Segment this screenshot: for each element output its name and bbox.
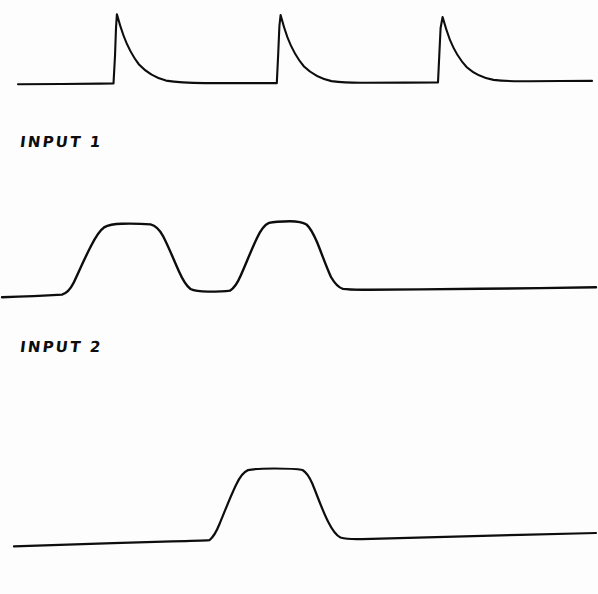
trace-input-2-path xyxy=(2,221,596,297)
trace-output-path xyxy=(14,469,596,547)
input-1-label: INPUT 1 xyxy=(19,133,104,151)
trace-input-1 xyxy=(18,14,592,84)
waveform-traces xyxy=(0,0,598,594)
waveform-diagram-page: INPUT 1 INPUT 2 xyxy=(0,0,598,594)
trace-input-1-path xyxy=(18,14,592,84)
trace-output xyxy=(14,469,596,547)
input-2-label: INPUT 2 xyxy=(19,338,104,356)
trace-input-2 xyxy=(2,221,596,297)
